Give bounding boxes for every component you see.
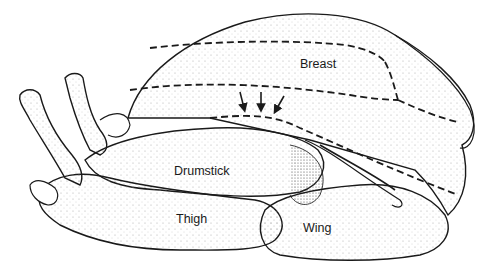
chicken-diagram: [0, 0, 483, 276]
label-thigh: Thigh: [176, 213, 207, 226]
label-drumstick: Drumstick: [174, 165, 230, 178]
label-breast: Breast: [300, 58, 336, 71]
label-wing: Wing: [303, 222, 331, 235]
